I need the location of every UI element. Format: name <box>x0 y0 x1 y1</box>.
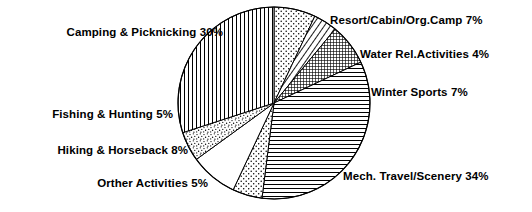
pie-label-hiking: Hiking & Horseback 8% <box>18 144 188 157</box>
pie-label-resort: Resort/Cabin/Org.Camp 7% <box>330 14 483 27</box>
pie-label-fishing: Fishing & Hunting 5% <box>18 108 173 121</box>
pie-label-camping: Camping & Picknicking 30% <box>18 26 223 39</box>
pie-label-orther: Orther Activities 5% <box>30 177 208 190</box>
pie-chart-figure: Camping & Picknicking 30% Resort/Cabin/O… <box>0 0 532 212</box>
pie-label-winter: Winter Sports 7% <box>371 86 468 99</box>
pie-label-mech-travel: Mech. Travel/Scenery 34% <box>343 170 489 183</box>
pie-label-water: Water Rel.Activities 4% <box>360 48 489 61</box>
